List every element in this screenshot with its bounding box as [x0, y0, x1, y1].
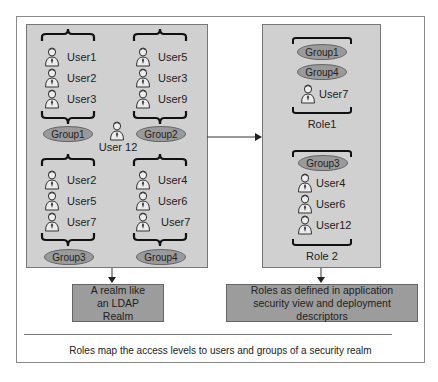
group-ellipse: Group1 [43, 126, 93, 142]
brace-top-group1 [40, 28, 96, 42]
brace-bottom-group3 [40, 232, 96, 248]
user-item: User5 [135, 47, 187, 67]
user-icon [300, 84, 316, 104]
user-icon [44, 170, 60, 190]
role2-label: Role 2 [292, 250, 352, 262]
role1-label: Role1 [292, 118, 352, 130]
user-item: User6 [135, 191, 187, 211]
user-icon [297, 173, 313, 193]
user-icon [135, 68, 151, 88]
user-item: User4 [135, 170, 187, 190]
user-icon [135, 89, 151, 109]
user-item: User4 [297, 173, 345, 193]
user-icon [109, 121, 125, 141]
brace-bottom-group2 [132, 110, 188, 126]
group-ellipse: Group3 [44, 249, 94, 265]
brace-top-group4 [132, 153, 188, 167]
brace-top-group2 [132, 28, 188, 42]
arrow-roles-down [316, 268, 326, 284]
user-icon [297, 194, 313, 214]
user-item: User7 [300, 84, 348, 104]
user-icon [135, 47, 151, 67]
bracket-bottom-role2 [292, 238, 352, 246]
user-item: User3 [44, 89, 96, 109]
user-icon [135, 212, 151, 232]
brace-top-group3 [40, 153, 96, 167]
user-icon [44, 191, 60, 211]
user-icon [44, 68, 60, 88]
user-icon [135, 191, 151, 211]
group-ellipse: Group4 [297, 64, 347, 80]
user-item: User7 [44, 212, 96, 232]
user-icon [44, 89, 60, 109]
divider [24, 334, 392, 335]
group-ellipse: Group1 [297, 44, 347, 60]
user-item: User9 [135, 89, 187, 109]
user-icon [135, 170, 151, 190]
user-item: User3 [135, 68, 187, 88]
user-item: User2 [44, 170, 96, 190]
brace-bottom-group4 [132, 232, 188, 248]
user-icon [297, 215, 313, 235]
figure-caption: Roles map the access levels to users and… [16, 345, 425, 356]
standalone-user-label: User 12 [92, 141, 144, 153]
group-ellipse: Group2 [136, 126, 186, 142]
user-item: User6 [297, 194, 345, 214]
bracket-bottom-role1 [292, 106, 352, 114]
realm-label-box: A realm like an LDAP Realm [72, 284, 164, 322]
user-item: User7 [135, 212, 190, 232]
roles-label-box: Roles as defined in application security… [226, 284, 418, 322]
user-item: User12 [297, 215, 351, 235]
user-item: User1 [44, 47, 96, 67]
arrow-realm-to-roles [207, 132, 263, 142]
brace-bottom-group1 [40, 110, 96, 126]
arrow-realm-down [107, 268, 117, 284]
group-ellipse: Group3 [298, 155, 348, 171]
user-item: User5 [44, 191, 96, 211]
group-ellipse: Group4 [136, 249, 186, 265]
user-icon [44, 47, 60, 67]
user-item: User2 [44, 68, 96, 88]
user-icon [44, 212, 60, 232]
